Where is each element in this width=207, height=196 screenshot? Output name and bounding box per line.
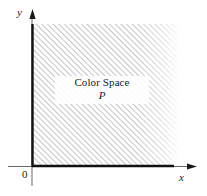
region-name-label: Color Space — [52, 76, 152, 88]
x-axis-arrow-icon — [187, 163, 197, 169]
color-space-figure: y x 0 Color Space P — [0, 0, 207, 196]
x-axis-label: x — [179, 172, 184, 183]
region-caption: Color Space P — [52, 76, 152, 102]
y-axis-label: y — [17, 7, 22, 18]
origin-label: 0 — [22, 169, 28, 180]
y-axis-arrow-icon — [29, 9, 35, 19]
region-symbol-label: P — [52, 89, 152, 102]
